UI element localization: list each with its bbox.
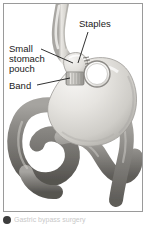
figure-root: Staples Small stomach pouch Band Gastric… — [0, 0, 148, 229]
band-ring-opening — [84, 61, 110, 87]
illustration-panel: Staples Small stomach pouch Band — [3, 3, 143, 212]
caption-text: Gastric bypass surgery — [14, 216, 145, 224]
filled-circle-icon — [3, 216, 11, 224]
anatomy-illustration — [4, 4, 142, 211]
figure-caption: Gastric bypass surgery — [3, 216, 145, 228]
